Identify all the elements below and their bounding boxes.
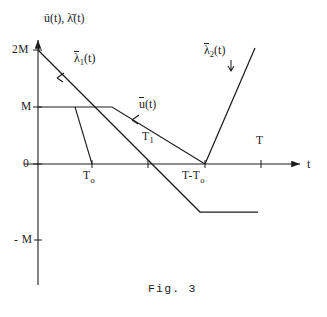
curve-label-lambda1-sub: 1 <box>80 57 84 67</box>
figure-container: ū(t), λ̄(t) 2M M 0 - M t To T1 T-To T λ… <box>0 0 327 317</box>
curve-label-lambda2-sub: 2 <box>210 49 214 59</box>
curve-label-lambda2-main: λ <box>204 44 210 56</box>
curve-label-ubar-tail: (t) <box>145 97 156 111</box>
curve-label-ubar-main: u <box>139 98 145 110</box>
y-tick-label-2M: 2M <box>12 44 29 56</box>
x-tick-label-T1-main: T <box>142 130 150 142</box>
curve-lambda1-dropline <box>75 107 92 164</box>
y-tick-label-0: 0 <box>23 158 29 170</box>
curve-label-lambda1: λ1(t) <box>74 52 95 64</box>
pointer-arrow-lambda2 <box>228 60 234 71</box>
curve-label-lambda1-tail: (t) <box>84 51 95 65</box>
curve-ubar-descending <box>112 107 200 212</box>
x-tick-label-T-minus-T0: T-To <box>182 170 205 182</box>
figure-caption: Fig. 3 <box>148 283 197 295</box>
x-tick-label-T0-sub: o <box>91 175 96 185</box>
y-axis-title: ū(t), λ̄(t) <box>44 12 84 24</box>
x-tick-label-T1: T1 <box>142 131 154 143</box>
curve-lambda2 <box>205 48 255 164</box>
x-tick-label-T0: To <box>83 170 95 182</box>
x-tick-label-T-main: T <box>256 134 264 146</box>
x-tick-label-T0-main: T <box>83 169 91 181</box>
overline-bar <box>139 97 144 98</box>
curve-label-ubar: u(t) <box>139 98 156 110</box>
curve-label-lambda2-tail: (t) <box>214 43 225 57</box>
x-tick-label-T: T <box>256 135 264 147</box>
y-tick-label-M: M <box>21 101 32 113</box>
direction-marker-lambda1 <box>57 73 64 82</box>
y-tick-label-minus-M: - M <box>14 234 32 246</box>
curve-ubar <box>38 107 205 164</box>
plot-canvas <box>0 0 327 317</box>
x-tick-label-T-minus-T0-sub: o <box>200 175 205 185</box>
curve-label-lambda1-main: λ <box>74 52 80 64</box>
x-tick-label-T-minus-T0-main: T-T <box>182 169 200 181</box>
overline-bar <box>74 51 79 52</box>
overline-bar <box>204 43 209 44</box>
x-axis-label: t <box>307 158 310 170</box>
x-tick-label-T1-sub: 1 <box>150 135 155 145</box>
curve-label-lambda2: λ2(t) <box>204 44 225 56</box>
